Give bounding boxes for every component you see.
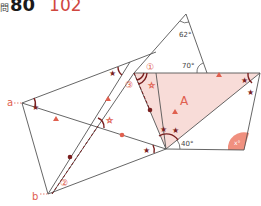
star-icon: ★ bbox=[143, 146, 150, 155]
star-icon: ★ bbox=[109, 69, 116, 78]
dot-marker-icon bbox=[120, 133, 125, 138]
angle-arc-top-left bbox=[118, 67, 122, 75]
triangle-marker-icon bbox=[105, 96, 111, 101]
dot-marker-icon bbox=[148, 108, 153, 113]
hollow-star-icon: ☆ bbox=[106, 116, 113, 125]
circled-label-3: ③ bbox=[125, 80, 133, 90]
angle-label-62: 62° bbox=[179, 31, 191, 39]
circled-label-1: ① bbox=[146, 62, 154, 72]
angle-label-40: 40° bbox=[181, 140, 193, 148]
geometry-diagram: ★ ★ ★ ★ ★ ★ ★ ☆ ☆ 62° 70° 40° x° A a b ①… bbox=[0, 0, 261, 206]
angle-label-x: x° bbox=[234, 139, 241, 146]
region-label-a: A bbox=[180, 94, 189, 108]
angle-arc-70 bbox=[197, 63, 203, 73]
hollow-star-icon: ☆ bbox=[148, 81, 155, 90]
circled-label-2: ② bbox=[60, 178, 68, 188]
star-icon: ★ bbox=[172, 126, 179, 135]
triangle-marker-icon bbox=[53, 116, 59, 121]
angle-arc-62 bbox=[180, 21, 189, 23]
angle-label-70: 70° bbox=[182, 62, 194, 70]
star-icon: ★ bbox=[241, 76, 248, 85]
angle-arc-star-mid bbox=[98, 118, 104, 128]
angle-arc-40 bbox=[177, 140, 180, 149]
dot-marker-icon bbox=[68, 155, 73, 160]
angle-arc-left-bottom bbox=[153, 145, 154, 153]
star-icon: ★ bbox=[32, 103, 39, 112]
point-label-a: a bbox=[7, 97, 13, 108]
star-icon: ★ bbox=[247, 88, 254, 97]
star-icon: ★ bbox=[160, 125, 167, 134]
point-label-b: b bbox=[32, 191, 38, 202]
